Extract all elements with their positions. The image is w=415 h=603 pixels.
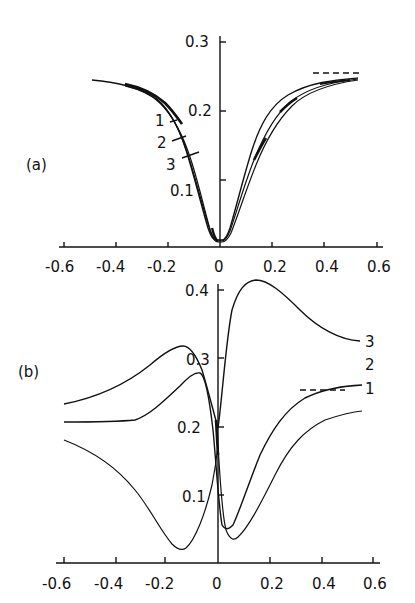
panel-a-curve-2-label: 2 (157, 134, 167, 152)
panel-a-ytick-0.1: 0.1 (170, 182, 194, 200)
panel-a-xtick: -0.4 (96, 258, 125, 276)
panel-b-xtick: -0.2 (145, 575, 174, 593)
panel-a-ytick-0.3: 0.3 (185, 33, 209, 51)
panel-b-curve-2-label: 2 (365, 356, 375, 374)
panel-a-label: (a) (26, 156, 47, 174)
panel-b-curve-3-label: 3 (365, 333, 375, 351)
panel-b-label: (b) (18, 363, 39, 381)
panel-a-xtick: 0.6 (367, 258, 391, 276)
panel-b-ytick-0.3: 0.3 (186, 351, 210, 369)
panel-b-xtick: 0.4 (312, 575, 336, 593)
panel-a-curve-1 (92, 78, 358, 240)
panel-a-curve-1-label: 1 (155, 112, 165, 130)
panel-a-xtick: -0.6 (45, 258, 74, 276)
panel-b-xtick: -0.4 (94, 575, 123, 593)
panel-b-curve-3 (64, 280, 360, 428)
panel-b-xtick: 0.2 (260, 575, 284, 593)
panel-b-ytick-0.4: 0.4 (185, 282, 209, 300)
panel-b-curve-1-label: 1 (365, 380, 375, 398)
panel-b-ytick-0.1: 0.1 (182, 488, 206, 506)
panel-a-curve-3 (125, 80, 358, 242)
panel-b-xtick: 0.6 (363, 575, 387, 593)
panel-a-leader-1 (170, 120, 177, 122)
panel-a-xtick: -0.2 (147, 258, 176, 276)
panel-a-axes (59, 36, 383, 247)
panel-a-xtick: 0.4 (315, 258, 339, 276)
panel-a-curve-3-label: 3 (166, 156, 176, 174)
figure: 0.3 0.2 0.1 (a) 1 2 3 -0.6 -0.4 -0.2 0 0… (0, 0, 415, 603)
panel-b-xtick: -0.6 (42, 575, 71, 593)
panel-b-curve-2 (64, 373, 362, 529)
panel-b-xtick: 0 (212, 575, 222, 593)
panel-a-xtick: 0.2 (263, 258, 287, 276)
panel-a-ytick-0.2: 0.2 (188, 102, 212, 120)
panel-a-xtick: 0 (214, 258, 224, 276)
panel-b-ytick-0.2: 0.2 (177, 419, 201, 437)
